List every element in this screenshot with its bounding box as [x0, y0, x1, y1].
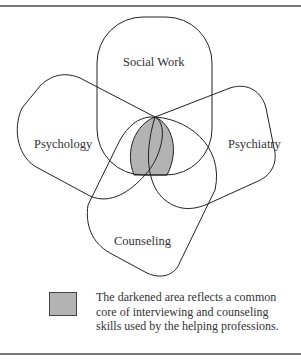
- label-counseling: Counseling: [114, 234, 171, 249]
- label-social-work: Social Work: [123, 55, 185, 70]
- label-psychology: Psychology: [34, 137, 92, 152]
- legend-swatch: [49, 292, 77, 316]
- legend-text: The darkened area reflects a common core…: [96, 290, 296, 334]
- bottom-rule: [0, 353, 301, 355]
- label-psychiatry: Psychiatry: [228, 137, 281, 152]
